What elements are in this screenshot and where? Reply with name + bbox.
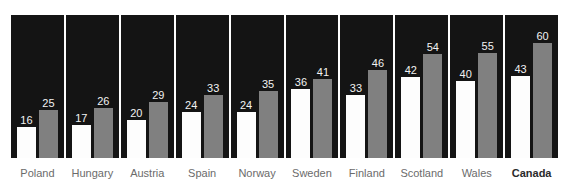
bar-rect (182, 112, 201, 158)
chart-panel: 2029 (121, 15, 174, 158)
bar-value-label: 24 (185, 99, 197, 112)
bar-rect (237, 112, 256, 158)
bar-value-label: 35 (262, 78, 274, 91)
bar-value-label: 17 (75, 112, 87, 125)
category-label: Spain (176, 160, 229, 186)
bar-value-label: 16 (20, 114, 32, 127)
bar-group: 1625 (11, 15, 64, 158)
bar-rect (511, 76, 530, 158)
bar-rect (127, 120, 146, 158)
category-label: Finland (340, 160, 393, 186)
bar-chart: 1625172620292433243536413346425440554360… (0, 0, 569, 190)
bar-first: 24 (182, 112, 201, 158)
chart-panel: 3346 (340, 15, 393, 158)
bar-second: 60 (533, 43, 552, 158)
bar-rect (401, 77, 420, 158)
bar-value-label: 20 (130, 107, 142, 120)
bar-rect (17, 127, 36, 158)
bar-rect (204, 95, 223, 158)
bar-second: 29 (149, 102, 168, 158)
bar-value-label: 42 (405, 64, 417, 77)
chart-panel: 1625 (11, 15, 64, 158)
bar-second: 26 (94, 108, 113, 158)
bar-value-label: 24 (240, 99, 252, 112)
category-label: Scotland (395, 160, 448, 186)
bar-rect (313, 79, 332, 158)
category-label: Canada (505, 160, 558, 186)
bar-first: 40 (456, 81, 475, 158)
bar-value-label: 29 (152, 89, 164, 102)
bar-second: 25 (39, 110, 58, 158)
category-label: Poland (11, 160, 64, 186)
chart-panel: 3641 (286, 15, 339, 158)
bar-value-label: 33 (350, 82, 362, 95)
category-label: Austria (121, 160, 174, 186)
bar-group: 2029 (121, 15, 174, 158)
bar-value-label: 46 (372, 57, 384, 70)
bar-value-label: 25 (42, 97, 54, 110)
bar-group: 4360 (505, 15, 558, 158)
bar-rect (94, 108, 113, 158)
chart-panel: 2433 (176, 15, 229, 158)
bar-group: 3641 (286, 15, 339, 158)
bar-first: 33 (346, 95, 365, 158)
bar-rect (368, 70, 387, 158)
bar-first: 36 (291, 89, 310, 158)
bar-first: 24 (237, 112, 256, 158)
chart-panel: 4254 (395, 15, 448, 158)
bar-rect (149, 102, 168, 158)
bar-group: 3346 (340, 15, 393, 158)
chart-panel: 1726 (66, 15, 119, 158)
bar-group: 2433 (176, 15, 229, 158)
bar-second: 46 (368, 70, 387, 158)
bar-rect (346, 95, 365, 158)
bar-second: 33 (204, 95, 223, 158)
bar-rect (72, 125, 91, 158)
bar-second: 55 (478, 53, 497, 158)
bar-value-label: 40 (460, 68, 472, 81)
bar-value-label: 55 (482, 40, 494, 53)
bar-rect (478, 53, 497, 158)
chart-panel: 2435 (231, 15, 284, 158)
bar-rect (533, 43, 552, 158)
bar-group: 4055 (450, 15, 503, 158)
bar-rect (291, 89, 310, 158)
bar-value-label: 33 (207, 82, 219, 95)
bar-value-label: 60 (536, 30, 548, 43)
bar-group: 1726 (66, 15, 119, 158)
bar-value-label: 54 (427, 41, 439, 54)
bar-rect (456, 81, 475, 158)
bar-first: 20 (127, 120, 146, 158)
chart-panel: 4360 (505, 15, 558, 158)
bar-value-label: 26 (97, 95, 109, 108)
bar-rect (39, 110, 58, 158)
chart-panels: 1625172620292433243536413346425440554360 (11, 15, 558, 158)
bar-first: 42 (401, 77, 420, 158)
category-label: Wales (450, 160, 503, 186)
bar-second: 54 (423, 54, 442, 158)
category-label: Hungary (66, 160, 119, 186)
bar-first: 17 (72, 125, 91, 158)
category-label: Norway (231, 160, 284, 186)
bar-value-label: 36 (295, 76, 307, 89)
bar-first: 16 (17, 127, 36, 158)
bar-rect (259, 91, 278, 158)
bar-rect (423, 54, 442, 158)
bar-group: 2435 (231, 15, 284, 158)
bar-value-label: 43 (514, 63, 526, 76)
category-axis: PolandHungaryAustriaSpainNorwaySwedenFin… (11, 160, 558, 186)
bar-first: 43 (511, 76, 530, 158)
bar-group: 4254 (395, 15, 448, 158)
category-label: Sweden (286, 160, 339, 186)
bar-second: 35 (259, 91, 278, 158)
chart-panel: 4055 (450, 15, 503, 158)
bar-value-label: 41 (317, 66, 329, 79)
bar-second: 41 (313, 79, 332, 158)
